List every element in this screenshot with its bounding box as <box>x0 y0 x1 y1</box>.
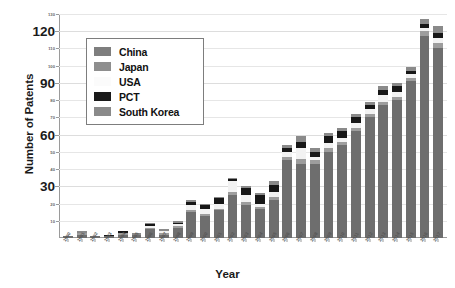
bar-segment-china <box>351 131 361 238</box>
bar-column[interactable] <box>363 14 377 238</box>
x-tick-column: 2011 <box>349 240 363 266</box>
y-tick-label: 90 <box>40 75 55 90</box>
bar-stack <box>228 178 238 238</box>
bar-column[interactable] <box>418 14 432 238</box>
x-axis-label: Year <box>0 268 455 280</box>
bar-column[interactable] <box>335 14 349 238</box>
bar-stack <box>433 26 443 238</box>
bar-segment-korea <box>433 26 443 33</box>
x-tick-column: 2016 <box>418 240 432 266</box>
x-tick-column: 2005 <box>267 240 281 266</box>
y-tick-label: 30 <box>40 179 55 194</box>
bar-column[interactable] <box>431 14 445 238</box>
bar-stack <box>310 148 320 238</box>
x-tick-column: 2000 <box>198 240 212 266</box>
bar-stack <box>378 86 388 238</box>
bar-segment-pct <box>337 131 347 138</box>
y-tick-label: 10 <box>50 218 55 223</box>
bar-column[interactable] <box>281 14 295 238</box>
legend-item-south-korea[interactable]: South Korea <box>94 104 197 119</box>
x-tick-column: 2006 <box>281 240 295 266</box>
bar-column[interactable] <box>267 14 281 238</box>
x-tick-column: 1995 <box>130 240 144 266</box>
x-tick-column: 2012 <box>363 240 377 266</box>
bar-segment-china <box>282 160 292 238</box>
bar-column[interactable] <box>390 14 404 238</box>
bar-segment-usa <box>241 195 251 202</box>
x-tick-column: 2002 <box>226 240 240 266</box>
bar-segment-china <box>433 48 443 238</box>
x-tick-column: 2003 <box>239 240 253 266</box>
bar-column[interactable] <box>253 14 267 238</box>
x-tick-column: 1998 <box>171 240 185 266</box>
y-tick-label: 60 <box>40 127 55 142</box>
bar-stack <box>392 83 402 238</box>
bar-column[interactable] <box>61 14 75 238</box>
bar-segment-usa <box>228 181 238 191</box>
legend-swatch-icon <box>94 47 111 56</box>
y-tick-label: 20 <box>50 201 55 206</box>
legend-label: USA <box>119 76 141 88</box>
y-tick-label: 130 <box>48 12 55 17</box>
legend-item-japan[interactable]: Japan <box>94 59 197 74</box>
y-tick-label: 100 <box>48 63 55 68</box>
bar-segment-pct <box>255 195 265 204</box>
legend-item-pct[interactable]: PCT <box>94 89 197 104</box>
legend-label: South Korea <box>119 106 179 118</box>
bar-segment-china <box>378 105 388 238</box>
bar-column[interactable] <box>322 14 336 238</box>
bar-segment-china <box>420 36 430 238</box>
bar-column[interactable] <box>212 14 226 238</box>
y-axis-label: Number of Patents <box>23 49 35 199</box>
x-tick-column: 2009 <box>322 240 336 266</box>
y-tick-label: 120 <box>32 24 55 39</box>
legend-item-china[interactable]: China <box>94 44 197 59</box>
bar-segment-china <box>365 117 375 238</box>
x-tick-column: 1994 <box>116 240 130 266</box>
x-tick-column: 2008 <box>308 240 322 266</box>
bar-column[interactable] <box>377 14 391 238</box>
legend-swatch-icon <box>94 77 111 86</box>
bar-stack <box>269 181 279 238</box>
bar-stack <box>365 102 375 238</box>
legend-item-usa[interactable]: USA <box>94 74 197 89</box>
bar-segment-usa <box>378 95 388 102</box>
x-tick-column: 2013 <box>377 240 391 266</box>
legend-swatch-icon <box>94 92 111 101</box>
x-tick-column: 2001 <box>212 240 226 266</box>
bar-segment-china <box>337 145 347 238</box>
chart-legend: ChinaJapanUSAPCTSouth Korea <box>86 38 204 125</box>
bar-segment-pct <box>269 185 279 192</box>
y-tick-label: 80 <box>50 98 55 103</box>
x-tick-column: 1992 <box>88 240 102 266</box>
bar-segment-china <box>392 100 402 238</box>
legend-label: China <box>119 46 147 58</box>
y-tick-label: 50 <box>50 149 55 154</box>
bar-column[interactable] <box>308 14 322 238</box>
x-tick-column: 2007 <box>294 240 308 266</box>
bar-column[interactable] <box>404 14 418 238</box>
x-tick-column: 2014 <box>390 240 404 266</box>
bar-column[interactable] <box>349 14 363 238</box>
x-tick-column: 2015 <box>404 240 418 266</box>
y-tick-label: 40 <box>50 167 55 172</box>
x-tick-column: 1996 <box>143 240 157 266</box>
bar-segment-china <box>310 164 320 238</box>
x-tick-column: 1999 <box>184 240 198 266</box>
bar-segment-usa <box>296 148 306 158</box>
chart-figure: Number of Patents 1020405070801001101303… <box>0 0 455 288</box>
bar-segment-pct <box>324 136 334 143</box>
bar-stack <box>337 128 347 238</box>
x-tick-column: 2017 <box>431 240 445 266</box>
bar-stack <box>351 114 361 238</box>
bar-stack <box>324 133 334 238</box>
y-tick-label: 110 <box>48 46 55 51</box>
bar-column[interactable] <box>294 14 308 238</box>
bar-stack <box>241 186 251 238</box>
y-tick-label: 70 <box>50 115 55 120</box>
bar-stack <box>420 19 430 238</box>
bar-column[interactable] <box>226 14 240 238</box>
bar-segment-china <box>406 81 416 238</box>
bar-column[interactable] <box>239 14 253 238</box>
x-tick-column: 1993 <box>102 240 116 266</box>
